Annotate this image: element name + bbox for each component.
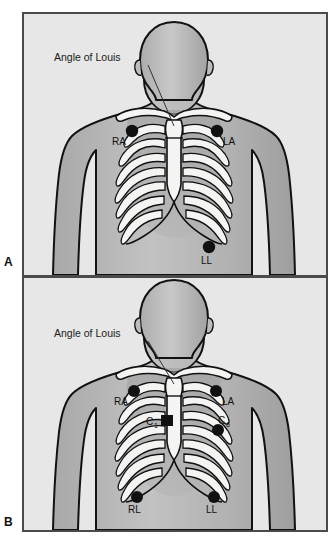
electrode-ra-label: RA xyxy=(112,136,126,147)
electrode-c1-dot xyxy=(161,415,173,426)
panel-a-illustration: Angle of Louis RA LA LL xyxy=(24,14,326,275)
head-silhouette xyxy=(140,22,208,100)
electrode-ll-label: LL xyxy=(206,504,218,515)
electrode-ra-dot xyxy=(126,125,138,137)
electrode-la-label: LA xyxy=(223,136,236,147)
electrode-la-dot xyxy=(211,125,223,137)
panel-b: Angle of Louis RA LA C 1 xyxy=(22,276,328,532)
panel-b-letter: B xyxy=(4,515,13,529)
electrode-c6-subscript: 6 xyxy=(226,421,230,428)
angle-of-louis-label: Angle of Louis xyxy=(54,327,121,339)
ecg-electrode-placement-figure: Angle of Louis RA LA LL A xyxy=(0,0,335,544)
electrode-ra-label: RA xyxy=(114,396,128,407)
electrode-c1-subscript: 1 xyxy=(154,422,158,429)
sternum xyxy=(166,120,183,202)
electrode-la-label: LA xyxy=(222,396,235,407)
angle-of-louis-label: Angle of Louis xyxy=(54,51,121,63)
electrode-ra-dot xyxy=(128,385,140,397)
panel-a: Angle of Louis RA LA LL xyxy=(22,12,328,277)
electrode-c1-label: C xyxy=(146,416,153,427)
panel-b-illustration: Angle of Louis RA LA C 1 xyxy=(24,278,326,530)
electrode-rl-dot xyxy=(131,491,143,503)
electrode-la-dot xyxy=(210,385,222,397)
electrode-rl-label: RL xyxy=(128,504,141,515)
head-silhouette xyxy=(140,280,208,358)
electrode-ll-dot xyxy=(208,491,220,503)
electrode-ll-dot xyxy=(203,241,215,253)
electrode-c6-label: C xyxy=(218,415,225,426)
electrode-ll-label: LL xyxy=(201,255,213,266)
panel-a-letter: A xyxy=(4,255,13,269)
